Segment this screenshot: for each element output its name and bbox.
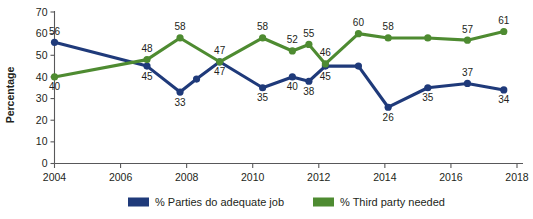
data-point [464, 37, 471, 44]
data-point [289, 47, 296, 54]
x-axis-tick-label: 2012 [307, 171, 331, 183]
y-axis-tick-label: 20 [36, 114, 48, 126]
data-point [259, 84, 266, 91]
y-axis-tick-label: 10 [36, 135, 48, 147]
y-axis-title: Percentage [4, 67, 16, 124]
legend-swatch-0 [128, 198, 149, 207]
data-point [500, 86, 507, 93]
data-point-label: 55 [303, 28, 315, 39]
x-axis-tick-label: 2010 [241, 171, 265, 183]
y-axis-tick-label: 60 [36, 27, 48, 39]
data-point-label: 37 [462, 67, 474, 78]
chart-canvas: 010203040506070 200420062008201020122014… [0, 0, 533, 219]
data-point-label: 26 [383, 112, 395, 123]
x-axis-tick-label: 2016 [439, 171, 463, 183]
data-point [424, 34, 431, 41]
y-axis-tick-label: 70 [36, 6, 48, 18]
data-point-label: 35 [257, 92, 269, 103]
y-axis-tick-label: 0 [42, 157, 48, 169]
data-point-label: 56 [49, 26, 61, 37]
data-point-label: 45 [320, 71, 332, 82]
data-point-label: 57 [462, 24, 474, 35]
data-point-label: 35 [422, 92, 434, 103]
data-point-label: 47 [214, 66, 226, 77]
data-point [322, 60, 329, 67]
data-point [51, 73, 58, 80]
data-point [193, 75, 200, 82]
data-point-label: 48 [141, 43, 153, 54]
y-axis-tick-label: 40 [36, 71, 48, 83]
data-point [355, 30, 362, 37]
data-point [464, 80, 471, 87]
data-point-label: 33 [174, 97, 186, 108]
data-point [355, 63, 362, 70]
legend-label-0: % Parties do adequate job [155, 196, 284, 208]
data-point [500, 28, 507, 35]
data-point [305, 41, 312, 48]
data-point [424, 84, 431, 91]
data-point [385, 104, 392, 111]
data-point [143, 56, 150, 63]
data-point [176, 88, 183, 95]
data-point-label: 58 [174, 21, 186, 32]
data-point-label: 60 [353, 17, 365, 28]
line-chart: 010203040506070 200420062008201020122014… [0, 0, 533, 219]
x-axis-tick-label: 2004 [43, 171, 67, 183]
chart-background [0, 0, 533, 219]
data-point-label: 46 [320, 47, 332, 58]
data-point-label: 34 [498, 94, 510, 105]
x-axis-tick-label: 2008 [175, 171, 199, 183]
data-point-label: 47 [214, 45, 226, 56]
data-point [143, 63, 150, 70]
x-axis-tick-label: 2018 [505, 171, 529, 183]
data-point-label: 40 [49, 81, 61, 92]
data-point [51, 39, 58, 46]
data-point [216, 58, 223, 65]
data-point [385, 34, 392, 41]
data-point-label: 40 [287, 81, 299, 92]
data-point [305, 78, 312, 85]
data-point-label: 58 [383, 21, 395, 32]
data-point-label: 38 [303, 86, 315, 97]
x-axis-tick-label: 2006 [109, 171, 133, 183]
data-point-label: 52 [287, 34, 299, 45]
data-point [289, 73, 296, 80]
data-point-label: 58 [257, 21, 269, 32]
data-point-label: 45 [141, 71, 153, 82]
data-point [176, 34, 183, 41]
x-axis-tick-label: 2014 [373, 171, 397, 183]
data-point [259, 34, 266, 41]
y-axis-tick-label: 30 [36, 92, 48, 104]
data-point-label: 61 [498, 15, 510, 26]
y-axis-tick-label: 50 [36, 49, 48, 61]
legend-label-1: % Third party needed [340, 196, 445, 208]
legend-swatch-1 [313, 198, 334, 207]
